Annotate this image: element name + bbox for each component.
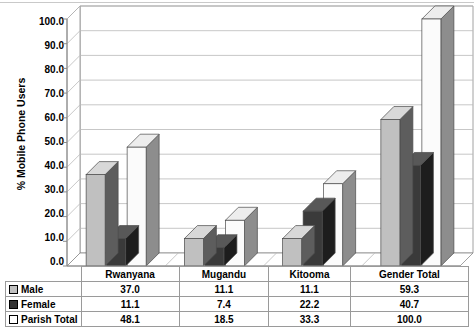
table-cell-r1-c2: 22.2 [269,297,351,312]
table-cell-r2-c1: 18.5 [179,312,268,327]
legend-swatch-icon [9,300,18,309]
bar-male-0-front [86,175,105,266]
table-cell-r0-c1: 11.1 [179,282,268,297]
table-cell-r2-c3: 100.0 [350,312,468,327]
column-header-1: Mugandu [179,267,268,282]
table-row: Female11.17.422.240.7 [6,297,469,312]
legend-row-0: Male [6,282,82,297]
table-cell-r1-c0: 11.1 [81,297,179,312]
column-header-2: Kitooma [269,267,351,282]
data-table: RwanyanaMuganduKitoomaGender TotalMale37… [5,266,469,327]
bar-parish-total-3-side [441,6,454,266]
table-cell-r1-c1: 7.4 [179,297,268,312]
bar-chart: % Mobile Phone Users 100.0 90.0 80.0 70.… [0,0,474,268]
table-row: Parish Total48.118.533.3100.0 [6,312,469,327]
bar-male-0-side [105,162,118,266]
bar-male-1-front [184,239,203,266]
bar-female-3-side [420,152,433,266]
legend-label: Female [21,299,55,310]
legend-label: Male [21,284,43,295]
bar-parish-total-2-side [343,171,356,266]
legend-row-2: Parish Total [6,312,82,327]
bar-male-3-side [400,107,413,266]
bar-male-3-front [381,120,400,266]
legend-swatch-icon [9,315,18,324]
table-header-row: RwanyanaMuganduKitoomaGender Total [6,267,469,282]
table-cell-r1-c3: 40.7 [350,297,468,312]
table-cell-r0-c2: 11.1 [269,282,351,297]
table-corner-cell [6,267,82,282]
bar-male-2-front [283,239,302,266]
bar-parish-total-0-side [146,134,159,266]
legend-swatch-icon [9,285,18,294]
column-header-0: Rwanyana [81,267,179,282]
legend-row-1: Female [6,297,82,312]
chart-screenshot: % Mobile Phone Users 100.0 90.0 80.0 70.… [0,0,474,334]
table-cell-r0-c0: 37.0 [81,282,179,297]
plot-canvas [0,0,474,268]
table-cell-r2-c2: 33.3 [269,312,351,327]
legend-label: Parish Total [21,314,78,325]
column-header-3: Gender Total [350,267,468,282]
table-row: Male37.011.111.159.3 [6,282,469,297]
table-cell-r2-c0: 48.1 [81,312,179,327]
table-cell-r0-c3: 59.3 [350,282,468,297]
